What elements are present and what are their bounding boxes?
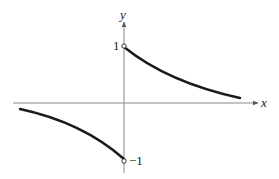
x-axis-label: x [260,95,267,110]
tick-label-neg1: −1 [129,153,143,168]
curve-right-branch [124,47,240,98]
open-point-y-1 [122,44,126,48]
open-point-y-neg1 [122,159,126,163]
curve-left-branch [20,109,124,159]
tick-label-1: 1 [113,38,120,53]
function-graph: y x 1 −1 [0,0,279,179]
y-axis-label: y [118,7,126,22]
